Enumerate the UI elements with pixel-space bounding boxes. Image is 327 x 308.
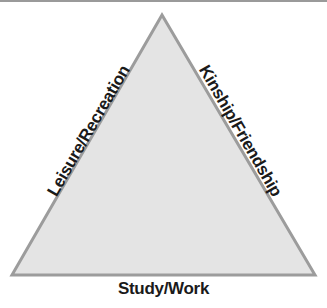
side-label-bottom: Study/Work bbox=[0, 279, 327, 299]
triangle-shape bbox=[0, 0, 327, 308]
